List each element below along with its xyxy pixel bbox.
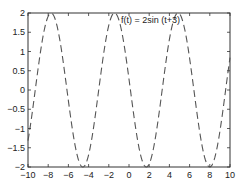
svg-text:6: 6: [187, 170, 192, 180]
svg-text:−2: −2: [104, 170, 114, 180]
svg-text:−6: −6: [63, 170, 73, 180]
svg-text:−8: −8: [43, 170, 53, 180]
axes-box: [28, 13, 230, 167]
svg-text:1.5: 1.5: [12, 27, 25, 37]
svg-text:0.5: 0.5: [12, 66, 25, 76]
svg-text:4: 4: [167, 170, 172, 180]
svg-text:1: 1: [20, 47, 25, 57]
svg-text:−1.5: −1.5: [7, 143, 25, 153]
svg-text:−0.5: −0.5: [7, 104, 25, 114]
function-annotation: f(t) = 2sin (t+3): [121, 15, 180, 25]
svg-text:10: 10: [225, 170, 235, 180]
svg-text:−4: −4: [83, 170, 93, 180]
svg-text:2: 2: [20, 8, 25, 18]
svg-text:−1: −1: [15, 124, 25, 134]
svg-text:−2: −2: [15, 162, 25, 172]
svg-text:0: 0: [20, 85, 25, 95]
svg-text:2: 2: [147, 170, 152, 180]
sine-plot: −10−8−6−4−20246810 −2−1.5−1−0.500.511.52…: [0, 0, 239, 186]
svg-text:8: 8: [207, 170, 212, 180]
svg-text:0: 0: [126, 170, 131, 180]
